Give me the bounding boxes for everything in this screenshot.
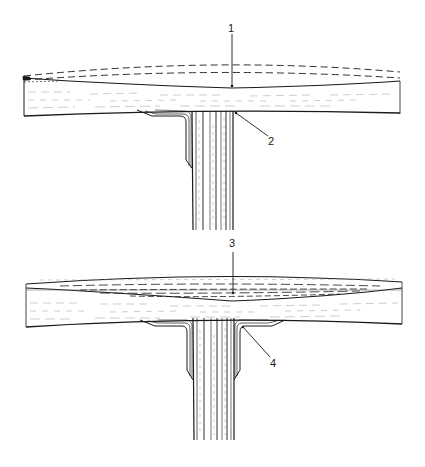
callout-label-2: 2: [268, 136, 274, 147]
left-fillet-outer: [140, 320, 193, 380]
flange-hatching: [28, 92, 395, 108]
left-fillet-mid: [145, 111, 189, 166]
dashed-original-surface-lower: [24, 72, 400, 80]
flange-outer-top-surface: [26, 276, 402, 284]
bottom-panel: [26, 252, 402, 440]
callout-2-dot: [235, 112, 238, 115]
right-fillet-outer: [234, 320, 285, 380]
stem-left-edge: [192, 111, 193, 230]
top-stem: [192, 111, 233, 230]
flange-top-surface: [24, 78, 400, 88]
dashed-original-surface-upper: [24, 65, 400, 76]
stem-left-edge: [193, 318, 194, 440]
callout-2-leader: [236, 113, 268, 136]
left-fillet-outer: [137, 110, 192, 168]
callout-4-dot: [242, 326, 244, 328]
flange-bottom-surface: [24, 111, 400, 116]
callout-3-dot: [232, 292, 234, 294]
left-fillet-mid: [148, 321, 190, 376]
callout-label-3: 3: [229, 238, 235, 249]
flange-left-corner: [23, 76, 30, 80]
callout-4-leader: [243, 327, 270, 357]
callout-label-4: 4: [270, 358, 276, 369]
flange-hatching: [30, 303, 398, 319]
flange-bottom-surface: [26, 320, 402, 327]
diagram-canvas: [0, 0, 425, 467]
callout-label-1: 1: [228, 23, 234, 34]
top-panel: [23, 34, 400, 230]
bottom-stem: [193, 318, 234, 440]
callout-1-dot: [231, 85, 234, 88]
